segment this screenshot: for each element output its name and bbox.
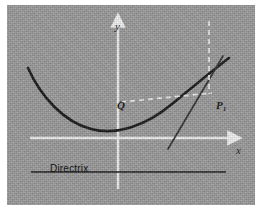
point-p1-label: P1 (216, 100, 226, 111)
x-axis-label: x (236, 145, 241, 156)
directrix-label: Directrix (50, 164, 88, 174)
parabola-curve (28, 58, 229, 131)
parabola-figure: y x Q P1 Directrix (0, 0, 267, 218)
point-q-label: Q (117, 100, 125, 111)
point-p1-subscript: 1 (223, 105, 227, 113)
y-axis-label: y (115, 21, 120, 32)
scanned-figure-plate: y x Q P1 Directrix (7, 5, 255, 205)
point-p1-base: P (216, 99, 223, 111)
tangent-line (168, 56, 223, 149)
